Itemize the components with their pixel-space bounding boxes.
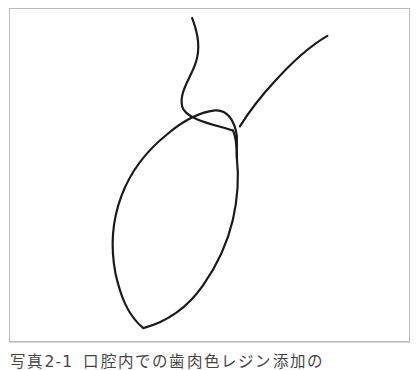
caption-label: 写真2-1 bbox=[10, 353, 73, 370]
figure-caption: 写真2-1口腔内での歯肉色レジン添加の bbox=[0, 344, 419, 370]
caption-body: 口腔内での歯肉色レジン添加の bbox=[83, 353, 324, 370]
caption-line: 写真2-1口腔内での歯肉色レジン添加の bbox=[10, 352, 419, 370]
upper-right-branch-stroke bbox=[240, 36, 328, 126]
figure-drawing-canvas bbox=[10, 9, 409, 341]
document-page: 写真2-1口腔内での歯肉色レジン添加の bbox=[0, 0, 419, 370]
figure-frame bbox=[9, 8, 410, 342]
teardrop-loop-stroke bbox=[113, 110, 238, 328]
